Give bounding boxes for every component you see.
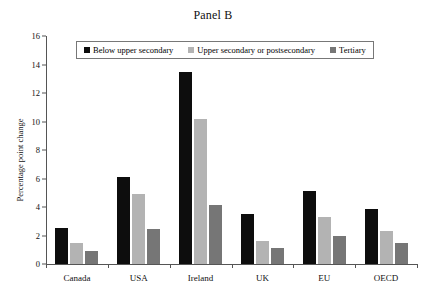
legend-item: Tertiary bbox=[330, 45, 366, 55]
y-axis-tick-mark bbox=[42, 93, 46, 94]
bar bbox=[303, 191, 316, 264]
bar bbox=[117, 177, 130, 264]
bar bbox=[318, 217, 331, 264]
y-axis-tick-mark bbox=[42, 121, 46, 122]
legend-label: Tertiary bbox=[339, 45, 366, 55]
x-axis-tick-mark bbox=[232, 264, 233, 268]
y-axis-tick-mark bbox=[42, 150, 46, 151]
bar bbox=[194, 119, 207, 264]
bar bbox=[256, 241, 269, 264]
y-axis-tick-label: 2 bbox=[10, 231, 46, 241]
y-axis-tick-label: 12 bbox=[10, 88, 46, 98]
x-axis-tick-label: Ireland bbox=[188, 273, 213, 283]
x-axis-tick-label: Canada bbox=[63, 273, 90, 283]
y-axis-tick-mark bbox=[42, 207, 46, 208]
x-axis-tick-mark bbox=[108, 264, 109, 268]
x-axis-tick-label: UK bbox=[256, 273, 269, 283]
y-axis-tick-mark bbox=[42, 36, 46, 37]
bar bbox=[85, 251, 98, 264]
legend-swatch-icon bbox=[330, 47, 336, 53]
bar bbox=[395, 243, 408, 264]
legend-label: Upper secondary or postsecondary bbox=[197, 45, 315, 55]
legend-item: Upper secondary or postsecondary bbox=[188, 45, 315, 55]
x-axis-tick-label: OECD bbox=[374, 273, 399, 283]
bar bbox=[209, 205, 222, 264]
bar bbox=[271, 248, 284, 264]
x-axis-tick-mark bbox=[355, 264, 356, 268]
bar bbox=[380, 231, 393, 264]
x-axis-tick-mark bbox=[417, 264, 418, 268]
chart-legend: Below upper secondary Upper secondary or… bbox=[76, 41, 374, 59]
y-axis-tick-mark bbox=[42, 235, 46, 236]
bar bbox=[365, 209, 378, 264]
y-axis-tick-label: 10 bbox=[10, 117, 46, 127]
legend-label: Below upper secondary bbox=[93, 45, 173, 55]
y-axis-tick-label: 14 bbox=[10, 60, 46, 70]
bar bbox=[333, 236, 346, 265]
bar bbox=[132, 194, 145, 264]
x-axis-tick-mark bbox=[170, 264, 171, 268]
y-axis-tick-label: 6 bbox=[10, 174, 46, 184]
legend-item: Below upper secondary bbox=[84, 45, 173, 55]
legend-swatch-icon bbox=[84, 47, 90, 53]
chart-figure: Panel B Percentage point change 02468101… bbox=[0, 0, 426, 300]
y-axis-tick-mark bbox=[42, 178, 46, 179]
bar bbox=[179, 72, 192, 264]
plot-area: 0246810121416CanadaUSAIrelandUKEUOECD bbox=[46, 36, 417, 264]
page-title: Panel B bbox=[0, 8, 426, 23]
bar bbox=[147, 229, 160, 264]
y-axis-tick-mark bbox=[42, 64, 46, 65]
bar bbox=[55, 228, 68, 264]
bar bbox=[241, 214, 254, 264]
x-axis-tick-label: USA bbox=[130, 273, 148, 283]
bar bbox=[70, 243, 83, 264]
x-axis-tick-label: EU bbox=[318, 273, 330, 283]
y-axis-tick-label: 0 bbox=[10, 259, 46, 269]
x-axis-tick-mark bbox=[293, 264, 294, 268]
x-axis-tick-mark bbox=[46, 264, 47, 268]
legend-swatch-icon bbox=[188, 47, 194, 53]
y-axis-tick-label: 4 bbox=[10, 202, 46, 212]
y-axis-tick-label: 8 bbox=[10, 145, 46, 155]
y-axis-tick-label: 16 bbox=[10, 31, 46, 41]
